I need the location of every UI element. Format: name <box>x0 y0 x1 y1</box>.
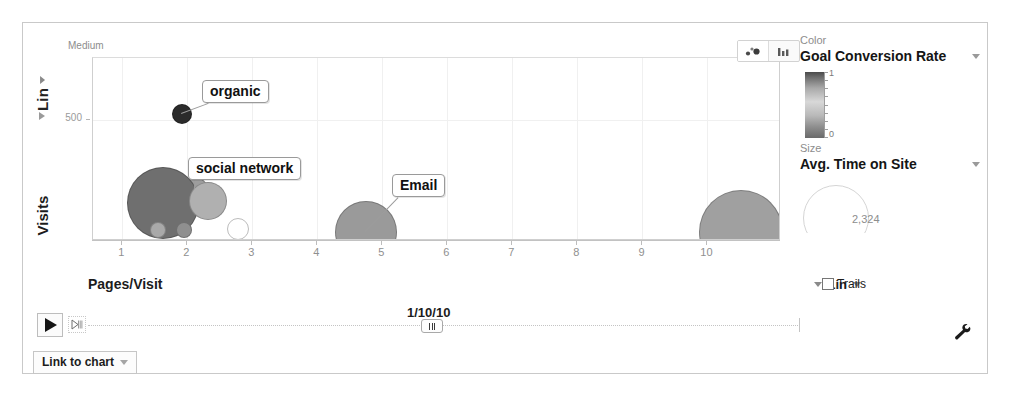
x-tick-mark <box>511 241 512 245</box>
x-tick-mark <box>381 241 382 245</box>
handle-grip-icon <box>434 323 435 330</box>
color-metric-label: Goal Conversion Rate <box>800 48 946 64</box>
size-legend: 2,324 <box>800 181 980 233</box>
data-point-callout[interactable]: organic <box>202 80 269 103</box>
motion-chart-widget: Medium Lin Visits 500 12345678910 Pages/… <box>0 0 1011 400</box>
y-tick-mark <box>86 119 90 120</box>
x-axis-title[interactable]: Pages/Visit <box>88 276 162 292</box>
color-gradient-legend: 1 0 <box>800 72 860 138</box>
bubble-chart-type-button[interactable] <box>738 41 769 61</box>
bubble-data-point[interactable] <box>150 222 166 238</box>
x-tick-mark <box>446 241 447 245</box>
plot-area[interactable] <box>92 57 780 240</box>
y-axis-title-label: Visits <box>35 195 52 235</box>
grid-line-vertical <box>447 58 448 239</box>
x-tick-mark <box>706 241 707 245</box>
chevron-down-icon <box>41 75 46 83</box>
x-tick-label: 3 <box>248 246 254 258</box>
x-tick-label: 10 <box>700 246 712 258</box>
handle-grip-icon <box>429 323 430 330</box>
y-tick-label-500: 500 <box>52 112 82 123</box>
x-tick-label: 4 <box>313 246 319 258</box>
x-tick-mark <box>316 241 317 245</box>
size-metric-label: Avg. Time on Site <box>800 156 917 172</box>
size-legend-value: 2,324 <box>852 213 880 225</box>
x-tick-label: 2 <box>183 246 189 258</box>
grid-line-vertical <box>317 58 318 239</box>
wrench-icon <box>951 322 973 342</box>
y-axis-expand-arrow-icon[interactable] <box>39 112 45 120</box>
color-legend-min-label: 0 <box>829 129 834 139</box>
x-tick-mark <box>641 241 642 245</box>
x-axis-line <box>92 240 780 241</box>
x-tick-mark <box>121 241 122 245</box>
size-legend-circle <box>803 185 869 233</box>
x-tick-label: 8 <box>573 246 579 258</box>
color-legend-max-label: 1 <box>829 68 834 78</box>
grid-line-vertical <box>512 58 513 239</box>
grid-line-vertical <box>577 58 578 239</box>
x-tick-label: 6 <box>443 246 449 258</box>
bubble-data-point[interactable] <box>699 190 780 240</box>
y-axis-scale-label: Lin <box>35 87 52 110</box>
x-tick-mark <box>251 241 252 245</box>
bubble-data-point[interactable] <box>172 104 192 124</box>
bubble-chart-icon <box>744 45 762 57</box>
timeline-handle[interactable] <box>421 319 443 333</box>
timeline-current-date: 1/10/10 <box>407 305 450 320</box>
link-to-chart-button[interactable]: Link to chart <box>33 351 137 374</box>
timeline-track[interactable] <box>88 325 800 327</box>
size-section-caption: Size <box>800 142 988 154</box>
grid-line-horizontal <box>93 120 779 121</box>
chevron-down-icon <box>972 54 980 59</box>
color-gradient-bar <box>805 72 824 138</box>
y-axis-title[interactable]: Visits <box>26 175 60 255</box>
play-button[interactable] <box>37 313 63 337</box>
x-axis-title-label: Pages/Visit <box>88 276 162 292</box>
callout-leader-line <box>194 180 195 189</box>
settings-button[interactable] <box>951 322 973 346</box>
bubble-data-point[interactable] <box>227 218 249 240</box>
timeline-end-marker <box>799 318 800 332</box>
x-tick-mark <box>576 241 577 245</box>
data-point-callout[interactable]: Email <box>392 174 445 197</box>
x-tick-label: 7 <box>508 246 514 258</box>
data-point-callout[interactable]: social network <box>188 157 301 180</box>
chart-type-toggle[interactable] <box>737 40 800 62</box>
x-tick-label: 1 <box>118 246 124 258</box>
link-to-chart-label: Link to chart <box>42 355 114 369</box>
bar-chart-icon <box>775 45 793 57</box>
x-tick-mark <box>186 241 187 245</box>
chevron-down-icon <box>120 360 128 365</box>
chevron-down-icon <box>972 162 980 167</box>
bar-chart-type-button[interactable] <box>769 41 799 61</box>
handle-grip-icon <box>432 323 433 330</box>
playback-speed-button[interactable] <box>68 316 86 333</box>
fast-forward-icon <box>71 319 84 330</box>
color-metric-select[interactable]: Goal Conversion Rate <box>800 47 980 65</box>
play-icon <box>45 318 57 332</box>
color-section-caption: Color <box>800 34 988 46</box>
chart-options-panel: Color Goal Conversion Rate 1 0 Size Avg.… <box>800 34 988 284</box>
bubble-data-point[interactable] <box>176 222 192 238</box>
grid-line-vertical <box>642 58 643 239</box>
x-tick-label: 5 <box>378 246 384 258</box>
grid-line-vertical <box>122 58 123 239</box>
x-tick-label: 9 <box>638 246 644 258</box>
size-metric-select[interactable]: Avg. Time on Site <box>800 155 980 173</box>
series-label: Medium <box>68 40 104 51</box>
